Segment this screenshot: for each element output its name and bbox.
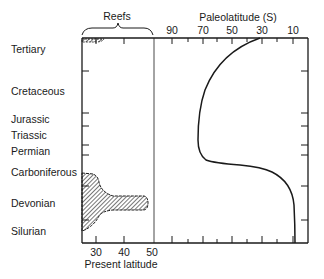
diagram-graphic (0, 0, 324, 279)
reef-area-tertiary (82, 39, 104, 42)
paleolatitude-curve (198, 38, 295, 243)
right-panel-axes (154, 38, 308, 243)
reefs-brace (82, 23, 153, 35)
reef-area-devonian (82, 173, 148, 231)
